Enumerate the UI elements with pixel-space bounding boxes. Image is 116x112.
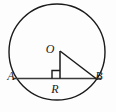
label-center-o: O <box>46 42 55 56</box>
geometry-figure: O A B R <box>0 0 116 112</box>
label-radius-r: R <box>50 82 59 96</box>
circle-diagram-canvas: O A B R <box>0 0 116 112</box>
label-point-b: B <box>95 69 103 83</box>
label-point-a: A <box>6 69 15 83</box>
